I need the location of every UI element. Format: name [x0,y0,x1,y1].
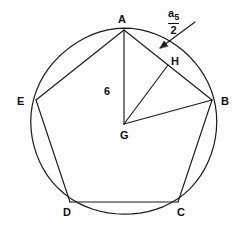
vertex-label-C: C [177,207,185,218]
diagram-canvas [0,0,246,234]
vertex-label-A: A [118,14,126,25]
apothem-G-H [124,65,168,124]
radius-G-B [124,100,212,124]
midpoint-label-H: H [171,56,179,67]
center-label-G: G [120,130,129,141]
vertex-label-E: E [17,96,24,107]
fraction-denominator: 2 [168,25,179,36]
fraction-numerator-subscript: 5 [174,12,179,22]
side-E-D [36,100,70,202]
side-C-B [178,100,212,202]
fraction-numerator: a5 [168,8,179,22]
vertex-label-B: B [221,96,229,107]
geometry-diagram: A B C D E G H 6 a5 2 [0,0,246,234]
vertex-label-D: D [63,207,71,218]
arrowhead-icon [160,41,168,48]
half-side-length-label: a5 2 [168,4,179,36]
radius-length-label: 6 [104,86,110,97]
